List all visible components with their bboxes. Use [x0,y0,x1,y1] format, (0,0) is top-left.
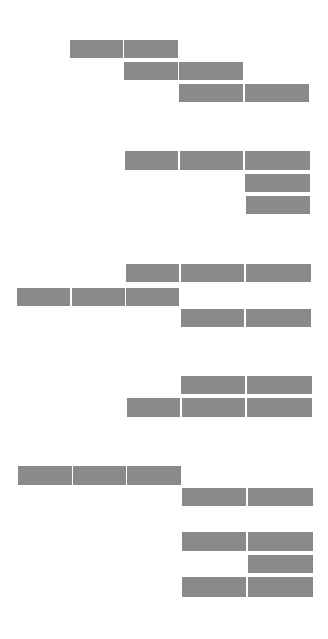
gray-block [182,532,246,551]
group-6 [0,0,328,639]
gray-block [248,532,313,551]
gray-block [248,577,313,597]
block-diagram-canvas [0,0,328,639]
gray-block [248,555,313,573]
gray-block [182,577,246,597]
